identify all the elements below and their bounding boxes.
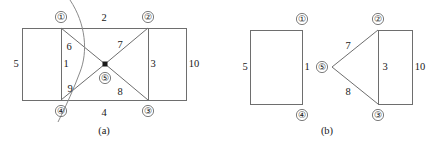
panel-b-edge-label-8: 8 [345, 86, 350, 97]
panel-a-node-2-label: ② [144, 12, 152, 22]
panel-a-edge-label-2: 2 [101, 12, 106, 23]
panel-b-edge-label-5: 5 [242, 61, 247, 72]
figure-root: ① ② ③ ④ ⑤ ① ④ ② ③ ⑤ 5 1 2 4 [0, 0, 434, 142]
panel-b-edge-7 [332, 30, 378, 67]
panel-a-edge-label-4: 4 [101, 107, 107, 118]
panel-a-edge-9 [61, 64, 105, 100]
panel-a-edge-label-1: 1 [63, 58, 68, 69]
panel-b-node-5-label: ⑤ [318, 62, 326, 72]
panel-a-edge-7 [105, 28, 148, 64]
panel-b-left-rectangle [250, 30, 302, 104]
panel-a-center-dot [103, 62, 108, 67]
panel-a-caption: (a) [98, 125, 110, 137]
panel-a-node-1-label: ① [57, 12, 65, 22]
panel-b-graph [250, 30, 412, 104]
panel-b-edge-label-1: 1 [304, 61, 309, 72]
panel-a-edge-label-5: 5 [13, 58, 18, 69]
figure-canvas: ① ② ③ ④ ⑤ ① ④ ② ③ ⑤ 5 1 2 4 [0, 0, 434, 142]
panel-b-node-3-label: ③ [374, 110, 382, 120]
panel-a-edge-label-8: 8 [117, 86, 122, 97]
panel-b-caption: (b) [321, 125, 334, 137]
panel-a-edge-label-7: 7 [117, 39, 122, 50]
panel-b-edge-label-3: 3 [382, 61, 387, 72]
panel-b-node-4-label: ④ [298, 110, 306, 120]
panel-b-node-1-label: ① [298, 14, 306, 24]
panel-a-edge-label-9: 9 [67, 83, 72, 94]
panel-a-node-3-label: ③ [144, 106, 152, 116]
panel-b-edge-8 [332, 67, 378, 104]
panel-a-edge-8 [105, 64, 148, 100]
panel-a-node-5-label: ⑤ [101, 73, 109, 83]
panel-a-edge-label-3: 3 [150, 58, 155, 69]
panel-b-node-2-label: ② [374, 14, 382, 24]
panel-a-edge-label-10: 10 [189, 58, 200, 69]
panel-b-edge-label-10: 10 [415, 61, 426, 72]
panel-b-edge-label-7: 7 [345, 40, 350, 51]
panel-a-node-4-label: ④ [57, 106, 65, 116]
panel-a-edge-label-6: 6 [66, 41, 71, 52]
